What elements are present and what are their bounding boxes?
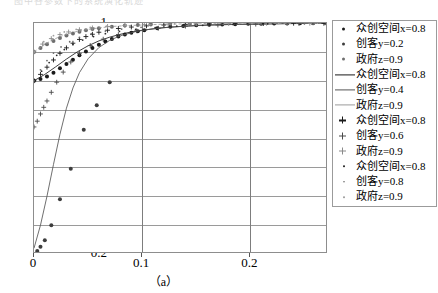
legend-item[interactable]: 众创空间x=0.8 — [333, 21, 436, 36]
data-point-plus — [35, 119, 40, 124]
data-point-dot — [82, 128, 86, 132]
legend-plus-icon-glyph — [339, 148, 346, 155]
legend-item-label: 众创空间x=0.8 — [356, 23, 425, 34]
legend-item-label: 政府z=0.9 — [356, 54, 403, 65]
data-point-tiny — [60, 46, 62, 48]
data-point-tiny — [190, 24, 192, 26]
data-point-dot — [34, 252, 36, 253]
data-point-dot — [58, 197, 62, 201]
legend-item[interactable]: 众创空间x=0.8 — [333, 159, 436, 174]
data-point-tiny — [267, 23, 269, 25]
legend-tinydot-icon-glyph — [343, 181, 345, 183]
data-point-tiny — [69, 41, 71, 43]
data-point-dot — [71, 58, 75, 62]
data-point-plus — [142, 23, 147, 27]
data-point-tiny — [75, 28, 77, 30]
legend-dot-icon-glyph — [342, 58, 345, 61]
data-point-tiny — [121, 28, 123, 30]
legend-item[interactable]: 创客y=0.8 — [333, 174, 436, 189]
data-point-tiny — [119, 30, 121, 32]
legend-dot-icon — [335, 37, 356, 50]
data-point-plus — [38, 112, 43, 117]
data-point-dot — [38, 245, 42, 249]
data-point-tiny — [304, 23, 306, 24]
legend-item[interactable]: 政府z=0.9 — [333, 189, 436, 204]
legend-dot-icon — [335, 22, 356, 35]
data-point-tiny — [46, 60, 48, 62]
data-point-dot — [95, 103, 99, 107]
data-point-tiny — [48, 62, 50, 64]
data-point-tiny — [82, 39, 84, 41]
legend-item[interactable]: 政府z=0.9 — [333, 143, 436, 158]
legend-item[interactable]: 创客y=0.4 — [333, 82, 436, 97]
legend-item[interactable]: 众创空间x=0.8 — [333, 113, 436, 128]
legend-item-label: 众创空间x=0.8 — [356, 69, 425, 80]
data-point-tiny — [56, 54, 58, 56]
legend-line-icon-glyph — [335, 105, 355, 106]
legend: 众创空间x=0.8创客y=0.2政府z=0.9众创空间x=0.8创客y=0.4政… — [332, 20, 437, 207]
data-point-plus — [54, 80, 59, 85]
data-series-layer — [34, 23, 327, 253]
data-point-tiny — [53, 35, 55, 37]
legend-item-label: 众创空间x=0.8 — [356, 115, 425, 126]
data-point-tiny — [104, 30, 106, 32]
data-point-tiny — [174, 23, 176, 25]
data-point-dot — [45, 74, 49, 78]
legend-tinydot-icon — [335, 160, 356, 173]
legend-tinydot-icon-glyph — [343, 196, 345, 198]
legend-plus-icon-glyph — [339, 132, 346, 139]
data-point-tiny — [163, 25, 165, 27]
legend-dot-icon-glyph — [342, 27, 345, 30]
data-point-dot — [51, 39, 55, 43]
data-point-dot — [58, 66, 62, 70]
data-point-plus — [41, 105, 46, 110]
legend-tinydot-icon — [335, 190, 356, 203]
data-point-tiny — [204, 23, 206, 24]
legend-item[interactable]: 创客y=0.2 — [333, 36, 436, 51]
legend-item-label: 政府z=0.9 — [356, 191, 403, 202]
legend-item[interactable]: 众创空间x=0.8 — [333, 67, 436, 82]
legend-item-label: 创客y=0.8 — [356, 176, 403, 187]
legend-item-label: 创客y=0.4 — [356, 84, 403, 95]
legend-plus-icon — [335, 145, 356, 158]
data-point-plus — [58, 51, 63, 56]
data-point-tiny — [63, 31, 65, 33]
data-point-tiny — [41, 70, 43, 72]
data-point-dot — [97, 43, 101, 47]
data-point-plus — [84, 34, 89, 39]
data-point-dot — [35, 249, 39, 253]
x-tick-label: 0.2 — [229, 256, 269, 269]
plot-area — [33, 22, 327, 253]
data-point-tiny — [125, 24, 127, 26]
data-point-tiny — [148, 24, 150, 26]
data-point-tiny — [53, 52, 55, 54]
data-point-tiny — [232, 24, 234, 26]
data-point-plus — [116, 26, 121, 31]
data-point-tiny — [89, 26, 91, 28]
data-point-plus — [51, 58, 56, 63]
data-point-tiny — [72, 43, 74, 45]
legend-line-icon-glyph — [335, 89, 355, 90]
legend-item[interactable]: 政府z=0.9 — [333, 52, 436, 67]
data-point-tiny — [63, 49, 65, 51]
data-point-plus — [61, 70, 66, 75]
data-point-dot — [49, 223, 53, 227]
data-point-dot — [84, 50, 88, 54]
data-point-tiny — [93, 36, 95, 38]
data-series-line — [34, 23, 327, 52]
legend-item-label: 众创空间x=0.8 — [356, 161, 425, 172]
data-point-plus — [291, 23, 296, 26]
data-point-tiny — [43, 41, 45, 43]
data-point-dot — [64, 62, 68, 66]
data-point-plus — [34, 125, 36, 130]
legend-plus-icon-glyph — [339, 117, 346, 124]
x-tick-label: 0.1 — [121, 256, 161, 269]
legend-item[interactable]: 政府z=0.9 — [333, 97, 436, 112]
data-series-line — [34, 23, 327, 248]
data-point-tiny — [140, 26, 142, 28]
legend-plus-icon — [335, 114, 356, 127]
data-point-dot — [69, 167, 73, 171]
legend-item-label: 创客y=0.6 — [356, 130, 403, 141]
data-point-tiny — [135, 28, 137, 30]
legend-item[interactable]: 创客y=0.6 — [333, 128, 436, 143]
